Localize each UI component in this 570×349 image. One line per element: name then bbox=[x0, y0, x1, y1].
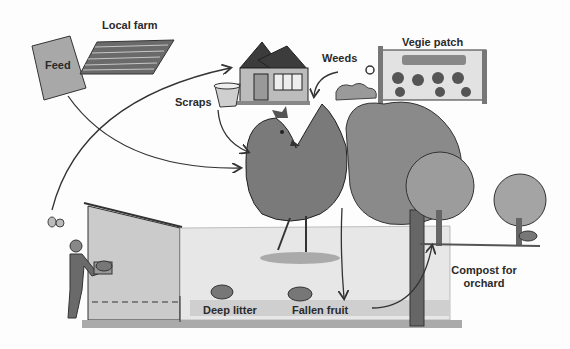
scraps-bucket-icon bbox=[214, 83, 240, 107]
weeds-bush-icon bbox=[336, 66, 376, 100]
vegie-patch-icon bbox=[378, 46, 487, 104]
arrow-feed-to-chicken bbox=[68, 96, 240, 168]
arrow-weeds-to-chicken bbox=[314, 72, 338, 96]
label-weeds: Weeds bbox=[322, 52, 357, 65]
eggs-icon bbox=[48, 217, 64, 227]
label-compost-line2: orchard bbox=[448, 277, 520, 290]
label-vegie-patch: Vegie patch bbox=[402, 36, 463, 49]
label-fallen-fruit: Fallen fruit bbox=[292, 304, 348, 317]
farm-field-icon bbox=[80, 40, 174, 74]
arrow-scraps-to-chicken bbox=[218, 110, 248, 152]
illustration bbox=[0, 0, 570, 349]
label-compost-for-orchard: Compost for orchard bbox=[448, 264, 520, 289]
house-icon bbox=[236, 42, 310, 105]
label-deep-litter: Deep litter bbox=[203, 304, 257, 317]
label-scraps: Scraps bbox=[175, 96, 212, 109]
label-compost-line1: Compost for bbox=[448, 264, 520, 277]
label-local-farm: Local farm bbox=[102, 19, 158, 32]
label-feed: Feed bbox=[45, 59, 71, 72]
